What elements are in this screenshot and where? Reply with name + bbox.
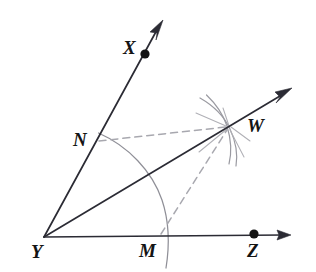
point-dot-Z (249, 229, 258, 238)
arc-spur-lower-left (199, 129, 227, 152)
arc-centered-at-Y (99, 133, 169, 268)
ray-YW-arrowhead (275, 88, 292, 103)
ray-YZ-arrowhead (277, 230, 291, 240)
label-Y: Y (31, 242, 43, 261)
ray-YX (44, 28, 158, 237)
ray-YX-arrowhead (150, 20, 163, 40)
label-W: W (247, 116, 264, 135)
geometry-diagram: Y X Z N M W (0, 0, 316, 272)
compass-arc-group (99, 95, 251, 268)
segment-MW (161, 130, 227, 234)
ray-YZ (44, 235, 283, 237)
label-M: M (139, 241, 156, 260)
point-dot-X (140, 49, 149, 58)
dashed-segment-group (99, 127, 227, 234)
label-Z: Z (247, 241, 259, 260)
label-N: N (73, 130, 87, 149)
geometry-canvas (0, 0, 316, 272)
label-X: X (123, 38, 136, 57)
